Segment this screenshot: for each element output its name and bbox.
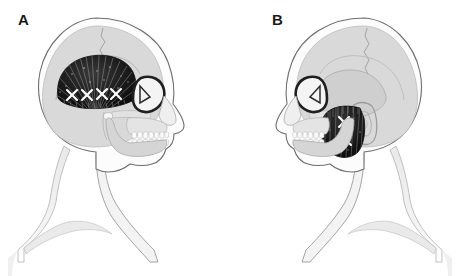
panel-a: A [0, 0, 230, 276]
head-lateral-view-b [230, 0, 460, 276]
clavicle [24, 221, 112, 254]
head-lateral-view-a [0, 0, 230, 276]
orbit [133, 77, 164, 112]
panel-b-illustration [230, 0, 460, 276]
maxillary-teeth [132, 132, 169, 138]
shoulder-left-edge [8, 250, 18, 276]
figure-container: A [0, 0, 460, 276]
orbit [296, 77, 327, 112]
clavicle [348, 221, 436, 254]
posterior-neck-contour [18, 146, 70, 262]
panel-b: B [230, 0, 460, 276]
posterior-neck-contour [390, 146, 442, 262]
shoulder-left-edge [442, 250, 452, 276]
panel-a-illustration [0, 0, 230, 276]
